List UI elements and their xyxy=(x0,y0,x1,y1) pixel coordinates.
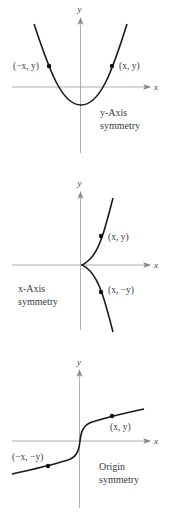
panel-x-axis-symmetry: x y (x, y) (x, −y) x-Axis symmetry xyxy=(12,178,158,332)
caption-line1: Origin xyxy=(99,461,125,472)
point-neg-x-neg-y xyxy=(46,464,50,468)
x-axis-label: x xyxy=(153,436,158,446)
panel-origin-symmetry: x y (x, y) (−x, −y) Origin symmetry xyxy=(12,357,158,508)
point-label-neg-x-y: (−x, y) xyxy=(13,61,39,72)
point-x-neg-y xyxy=(99,290,103,294)
caption-line2: symmetry xyxy=(99,474,139,485)
point-label-x-y: (x, y) xyxy=(108,232,129,243)
caption-line1: y-Axis xyxy=(100,107,127,118)
y-axis-label: y xyxy=(77,4,82,14)
y-axis-label: y xyxy=(76,357,81,367)
caption-line2: symmetry xyxy=(18,296,58,307)
symmetry-diagram: x y (−x, y) (x, y) y-Axis symmetry x y (… xyxy=(0,0,182,522)
panel-y-axis-symmetry: x y (−x, y) (x, y) y-Axis symmetry xyxy=(12,4,158,153)
point-label-neg-x-neg-y: (−x, −y) xyxy=(12,452,43,463)
caption-line2: symmetry xyxy=(100,120,140,131)
point-label-x-y: (x, y) xyxy=(110,422,131,433)
point-label-x-neg-y: (x, −y) xyxy=(108,285,134,296)
point-label-x-y: (x, y) xyxy=(119,61,140,72)
x-axis-label: x xyxy=(153,82,158,92)
point-neg-x-y xyxy=(47,64,51,68)
caption-line1: x-Axis xyxy=(18,283,45,294)
y-axis-label: y xyxy=(77,178,82,188)
point-x-y xyxy=(110,64,114,68)
x-axis-label: x xyxy=(153,260,158,270)
point-x-y xyxy=(110,414,114,418)
point-x-y xyxy=(99,234,103,238)
